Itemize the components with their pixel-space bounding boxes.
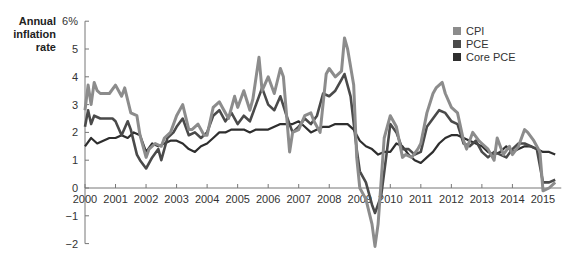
x-tick-label: 2008 — [317, 193, 341, 205]
legend-label: PCE — [466, 38, 489, 50]
x-tick-label: 2004 — [195, 193, 219, 205]
x-axis: 2000200120022003200420052006200720082009… — [73, 184, 562, 205]
x-tick-label: 2012 — [439, 193, 463, 205]
x-tick-label: 2007 — [286, 193, 310, 205]
legend-swatch-icon — [453, 27, 461, 35]
x-tick-label: 2013 — [470, 193, 494, 205]
y-tick-label: 2 — [72, 126, 78, 138]
series-lines — [85, 38, 555, 247]
y-axis-title: Annual inflation rate — [13, 15, 56, 53]
y-tick-label: 5 — [72, 43, 78, 55]
x-tick-label: 2000 — [73, 193, 97, 205]
legend-label: Core PCE — [466, 51, 516, 63]
y-tick-label: 6% — [62, 15, 78, 27]
legend-swatch-icon — [453, 40, 461, 48]
legend-swatch-icon — [453, 53, 461, 61]
y-tick-label: 4 — [72, 71, 78, 83]
x-tick-label: 2003 — [164, 193, 188, 205]
y-tick-label: 1 — [72, 154, 78, 166]
ylabel-line-3: rate — [36, 41, 56, 53]
x-tick-label: 2014 — [500, 193, 524, 205]
x-tick-label: 2001 — [103, 193, 127, 205]
ylabel-line-1: Annual — [19, 15, 56, 27]
ylabel-line-2: inflation — [13, 28, 56, 40]
inflation-chart: Annual inflation rate 6%543210−1−2 20002… — [0, 0, 576, 268]
x-tick-label: 2011 — [409, 193, 433, 205]
x-tick-label: 2002 — [134, 193, 158, 205]
series-cpi-line — [85, 38, 555, 247]
y-tick-label: −1 — [65, 210, 78, 222]
legend-label: CPI — [466, 25, 484, 37]
x-tick-label: 2015 — [531, 193, 555, 205]
x-tick-label: 2006 — [256, 193, 280, 205]
legend: CPIPCECore PCE — [453, 25, 516, 63]
x-tick-label: 2005 — [225, 193, 249, 205]
y-axis: 6%543210−1−2 — [62, 15, 89, 249]
y-tick-label: 3 — [72, 99, 78, 111]
y-tick-label: −2 — [65, 238, 78, 250]
